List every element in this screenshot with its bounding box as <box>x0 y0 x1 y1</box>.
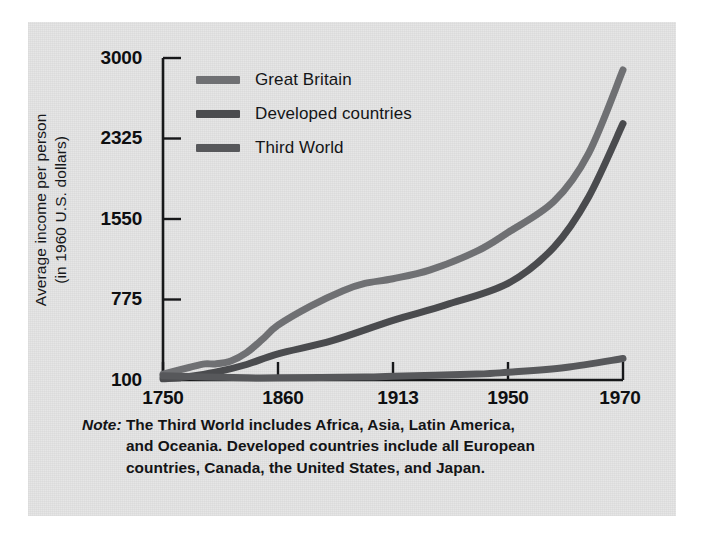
y-axis-ticks <box>163 58 181 380</box>
series-line-developed-countries <box>163 124 623 379</box>
chart-note: Note: The Third World includes Africa, A… <box>82 414 642 478</box>
note-label: Note: <box>82 416 122 433</box>
chart-figure: Average income per person (in 1960 U.S. … <box>28 22 676 516</box>
note-line-1: The Third World includes Africa, Asia, L… <box>126 416 515 433</box>
series-line-great-britain <box>163 70 623 374</box>
plot-area <box>28 22 676 422</box>
note-line-2: and Oceania. Developed countries include… <box>82 435 642 456</box>
data-series-layer <box>163 70 623 379</box>
note-line-3: countries, Canada, the United States, an… <box>82 457 642 478</box>
axis-lines <box>163 58 623 380</box>
